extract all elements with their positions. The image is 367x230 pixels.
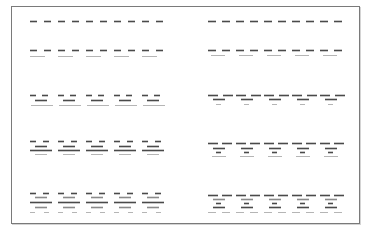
diagram-canvas bbox=[0, 0, 367, 230]
dash-pattern-grid bbox=[0, 0, 367, 230]
